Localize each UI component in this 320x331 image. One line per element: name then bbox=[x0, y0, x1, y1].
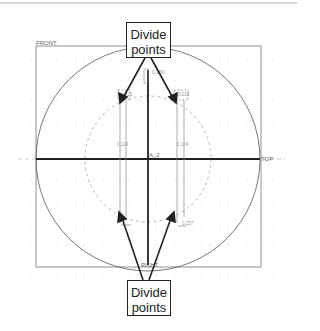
top-datum-label: TOP bbox=[261, 156, 273, 162]
dim-mid-left: 0.124 bbox=[117, 142, 129, 147]
dim-lower-right: 0.257 bbox=[182, 221, 194, 226]
callout-top-line1: Divide bbox=[127, 27, 170, 42]
dim-mid-right: 0.124 bbox=[177, 142, 189, 147]
right-slot bbox=[174, 90, 188, 226]
right-datum-label: RIGHT bbox=[141, 262, 159, 268]
front-datum-label: FRONT bbox=[36, 40, 57, 46]
center-label: A_2 bbox=[149, 152, 160, 158]
dim-upper-right: 0.220 bbox=[178, 92, 190, 97]
divide-points-callout-top: Divide points bbox=[126, 22, 171, 58]
callout-top-line2: points bbox=[127, 42, 170, 57]
background-grid bbox=[20, 60, 290, 275]
callout-bottom-line1: Divide bbox=[128, 285, 170, 300]
divide-points-callout-bottom: Divide points bbox=[127, 280, 171, 316]
callout-bottom-line2: points bbox=[128, 300, 170, 315]
